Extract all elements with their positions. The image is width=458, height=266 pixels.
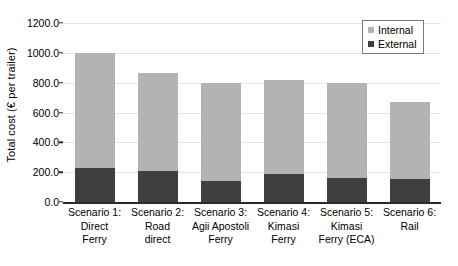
legend-item[interactable]: Internal [368,24,417,36]
y-axis-tick-label: 200.0 [3,166,59,178]
bar-stack [138,73,178,202]
y-axis-tick-label: 1000.0 [3,47,59,59]
gridline [63,142,441,143]
x-axis-label-line: Scenario 5: [315,206,378,220]
bar-segment-external [327,178,367,202]
bar-segment-external [390,179,430,202]
bar-segment-external [264,174,304,202]
x-axis-label-line: Kimasi [252,220,315,234]
bar-segment-internal [201,83,241,181]
x-axis-label-line: Road [126,220,189,234]
bar-segment-external [201,181,241,202]
bar-stack [75,53,115,202]
x-axis-label-line: Scenario 1: [63,206,126,220]
bar-segment-internal [390,102,430,179]
x-axis-label-line: Scenario 3: [189,206,252,220]
legend-item[interactable]: External [368,38,417,50]
legend-item-label: External [378,38,417,50]
x-axis-category-label: Scenario 6:Rail [378,206,441,233]
x-axis-label-line: Ferry [252,233,315,247]
legend-swatch-icon [368,27,374,33]
x-axis-label-line: Ferry [189,233,252,247]
gridline [63,172,441,173]
y-axis-tick-label: 1200.0 [3,17,59,29]
x-axis-label-line: Scenario 4: [252,206,315,220]
bar-stack [264,80,304,202]
bar-segment-external [75,168,115,202]
bar-stack [327,83,367,202]
x-axis-label-line: direct [126,233,189,247]
x-axis-category-label: Scenario 3:Agii ApostoliFerry [189,206,252,247]
chart-container: Total cost (€ per trailer) 1200.01000.08… [0,0,458,266]
bar-segment-internal [138,73,178,171]
y-axis-tick-label: 0.0 [3,196,59,208]
bar-stack [201,83,241,202]
y-axis-tick-label: 400.0 [3,136,59,148]
gridline [63,83,441,84]
chart-legend: InternalExternal [362,20,424,54]
x-axis-category-label: Scenario 2:Roaddirect [126,206,189,247]
gridline [63,113,441,114]
y-axis-tick-label: 600.0 [3,107,59,119]
x-axis-category-label: Scenario 4:KimasiFerry [252,206,315,247]
x-axis-label-line: Agii Apostoli [189,220,252,234]
x-axis-label-line: Scenario 6: [378,206,441,220]
x-axis-label-line: Rail [378,220,441,234]
x-axis-label-line: Ferry [63,233,126,247]
legend-item-label: Internal [378,24,413,36]
x-axis-category-label: Scenario 5:KimasiFerry (ECA) [315,206,378,247]
bar-segment-internal [327,83,367,179]
y-axis-tick-labels: 1200.01000.0800.0600.0400.0200.00.0 [0,0,59,266]
x-axis-category-labels: Scenario 1:DirectFerryScenario 2:Roaddir… [63,206,441,264]
x-axis-label-line: Scenario 2: [126,206,189,220]
y-axis-tick-label: 800.0 [3,77,59,89]
x-axis-category-label: Scenario 1:DirectFerry [63,206,126,247]
legend-swatch-icon [368,41,374,47]
x-axis-line [63,202,441,204]
x-axis-label-line: Ferry (ECA) [315,233,378,247]
bar-stack [390,102,430,202]
bar-segment-internal [264,80,304,175]
bar-segment-external [138,171,178,202]
x-axis-label-line: Kimasi [315,220,378,234]
bar-segment-internal [75,53,115,168]
x-axis-label-line: Direct [63,220,126,234]
